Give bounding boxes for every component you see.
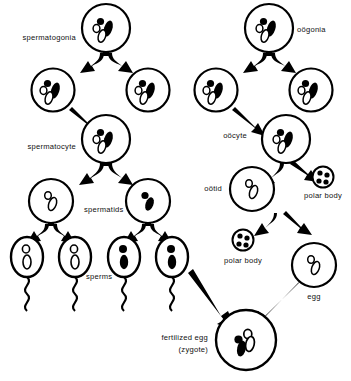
- cell-egg: [292, 243, 336, 287]
- label-zygote-line1: fertilized egg: [115, 333, 208, 343]
- cell-oogonium-right: [290, 69, 333, 112]
- cell-sperm-4: [156, 237, 188, 311]
- label-spermatocyte: spermatocyte: [2, 142, 76, 152]
- cell-spermatogonium-primary: [82, 4, 130, 52]
- label-ootid: oötid: [178, 184, 222, 194]
- label-spermatogonia: spermatogonia: [2, 33, 76, 43]
- cell-spermatogonium-right: [127, 69, 170, 112]
- gametogenesis-diagram: spermatogonia spermatocyte spermatids sp…: [0, 0, 351, 381]
- cell-sperm-1: [11, 237, 43, 311]
- cell-spermatocyte: [82, 115, 130, 163]
- cell-oogonium-left: [195, 69, 238, 112]
- label-oocyte: oöcyte: [194, 131, 247, 141]
- label-polar-body-upper: polar body: [295, 191, 351, 201]
- label-oogonia: oögonia: [297, 25, 326, 35]
- cell-sperm-3: [108, 237, 140, 311]
- cell-spermatid-left: [29, 179, 73, 223]
- label-spermatids: spermatids: [84, 205, 124, 215]
- cell-zygote: [216, 310, 276, 370]
- cell-spermatogonium-left: [32, 69, 75, 112]
- cell-polar-body-lower: [233, 230, 254, 251]
- cell-polar-body-upper: [313, 167, 334, 188]
- cell-oogonium-primary: [245, 4, 293, 52]
- cell-ootid: [230, 167, 274, 211]
- label-zygote-line2: (zygote): [115, 345, 208, 355]
- cell-oocyte: [262, 115, 310, 163]
- cell-spermatid-right: [126, 179, 170, 223]
- label-egg: egg: [294, 292, 334, 302]
- label-polar-body-lower: polar body: [213, 256, 273, 266]
- label-sperms: sperms: [86, 272, 112, 282]
